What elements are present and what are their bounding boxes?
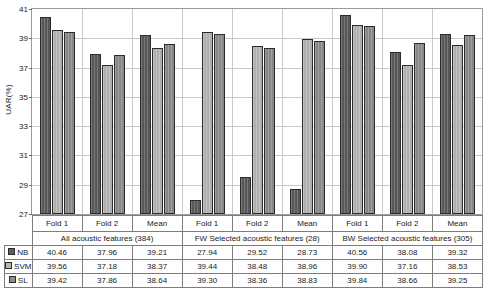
table-category-header: Mean [432, 216, 482, 232]
table-group-header: FW Selected acoustic features (28) [182, 232, 332, 246]
table-cell: 38.53 [432, 260, 482, 274]
bar-svm [202, 32, 213, 214]
table-cell: 39.56 [32, 260, 82, 274]
table-cell: 38.08 [382, 246, 432, 260]
bar-svm [302, 39, 313, 214]
legend-label: SL [18, 276, 28, 285]
bar-group [432, 9, 482, 214]
bar-sl [164, 44, 175, 214]
bar-nb [40, 17, 51, 214]
bar-sl [464, 35, 475, 214]
y-axis-tick-label: 35 [19, 92, 28, 101]
bar-svm [252, 46, 263, 214]
table-cell: 28.73 [282, 246, 332, 260]
legend-swatch-icon [5, 262, 12, 269]
legend-label: SVM [14, 262, 31, 271]
legend-item-nb: NB [5, 246, 33, 260]
bar-sl [64, 32, 75, 214]
table-cell: 38.66 [382, 274, 432, 288]
table-category-header: Mean [132, 216, 182, 232]
legend-swatch-icon [9, 276, 16, 283]
table-cell: 37.16 [382, 260, 432, 274]
table-cell: 38.36 [232, 274, 282, 288]
bar-nb [340, 15, 351, 214]
y-axis-tick-label: 33 [19, 122, 28, 131]
bar-sl [114, 55, 125, 214]
table-cell: 39.21 [132, 246, 182, 260]
table-cell: 29.52 [232, 246, 282, 260]
bar-svm [152, 48, 163, 214]
legend-swatch-icon [8, 248, 15, 255]
bar-svm [452, 45, 463, 214]
table-category-header: Fold 1 [182, 216, 232, 232]
bar-nb [90, 54, 101, 214]
table-corner-cell [5, 216, 33, 232]
bar-sl [314, 41, 325, 214]
bar-svm [402, 65, 413, 214]
bar-sl [264, 48, 275, 214]
y-axis-tick-label: 39 [19, 34, 28, 43]
table-header-row: Fold 1Fold 2MeanFold 1Fold 2MeanFold 1Fo… [5, 216, 483, 232]
table-cell: 39.84 [332, 274, 382, 288]
table-cell: 37.96 [82, 246, 132, 260]
table-row: SVM39.5637.1838.3739.4438.4838.9639.9037… [5, 260, 483, 274]
data-table: Fold 1Fold 2MeanFold 1Fold 2MeanFold 1Fo… [4, 215, 483, 288]
bar-nb [440, 34, 451, 214]
table-cell: 40.46 [32, 246, 82, 260]
legend-label: NB [17, 248, 28, 257]
table-row: NB40.4637.9639.2127.9429.5228.7340.5638.… [5, 246, 483, 260]
table-category-header: Fold 1 [32, 216, 82, 232]
table-row: SL39.4237.8638.6439.3038.3638.8339.8438.… [5, 274, 483, 288]
bar-nb [390, 52, 401, 214]
table-category-header: Fold 1 [332, 216, 382, 232]
table-category-header: Fold 2 [82, 216, 132, 232]
bar-group [132, 9, 182, 214]
table-cell: 39.44 [182, 260, 232, 274]
bar-sl [214, 34, 225, 214]
table-cell: 39.90 [332, 260, 382, 274]
bar-sl [364, 26, 375, 214]
table-cell: 38.37 [132, 260, 182, 274]
bar-group [232, 9, 282, 214]
table-cell: 37.18 [82, 260, 132, 274]
y-axis-tick-label: 37 [19, 63, 28, 72]
legend-item-svm: SVM [5, 260, 33, 274]
plot-area: 2729313335373941 [31, 8, 483, 215]
table-cell: 39.32 [432, 246, 482, 260]
bar-sl [414, 43, 425, 214]
bar-svm [102, 65, 113, 214]
bar-group [382, 9, 432, 214]
bar-nb [240, 177, 251, 214]
table-group-header: BW Selected acoustic features (305) [332, 232, 482, 246]
bar-nb [190, 200, 201, 214]
table-category-header: Mean [282, 216, 332, 232]
table-group-row: All acoustic features (384)FW Selected a… [5, 232, 483, 246]
bar-svm [52, 30, 63, 214]
y-axis-tick-label: 31 [19, 151, 28, 160]
bar-groups [32, 9, 482, 214]
table-cell: 38.83 [282, 274, 332, 288]
table-cell: 40.56 [332, 246, 382, 260]
y-axis-title: UAR(%) [4, 70, 13, 130]
legend-item-sl: SL [5, 274, 33, 288]
table-category-header: Fold 2 [382, 216, 432, 232]
bar-group [282, 9, 332, 214]
bar-nb [290, 189, 301, 214]
table-group-header: All acoustic features (384) [32, 232, 182, 246]
table-cell: 39.42 [32, 274, 82, 288]
bar-group [332, 9, 382, 214]
bar-group [32, 9, 82, 214]
y-axis-tick-label: 29 [19, 180, 28, 189]
bar-nb [140, 35, 151, 214]
table-cell: 39.30 [182, 274, 232, 288]
bar-group [182, 9, 232, 214]
table-category-header: Fold 2 [232, 216, 282, 232]
table-cell: 38.48 [232, 260, 282, 274]
bar-svm [352, 25, 363, 214]
table-cell: 39.25 [432, 274, 482, 288]
table-cell: 38.96 [282, 260, 332, 274]
table-cell: 37.86 [82, 274, 132, 288]
y-axis-tick-label: 41 [19, 5, 28, 14]
table-cell: 27.94 [182, 246, 232, 260]
